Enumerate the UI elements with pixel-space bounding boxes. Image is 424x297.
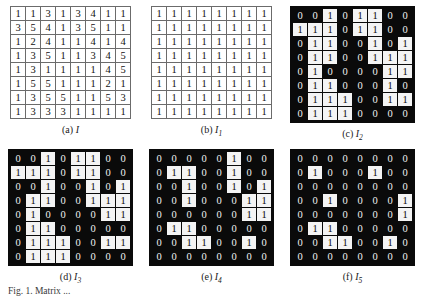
matrix-cell: 1 [197,236,212,250]
matrix-cell: 1 [152,35,167,49]
matrix-cell: 1 [257,77,272,91]
matrix-cell: 0 [197,194,212,208]
matrix-cell: 1 [257,21,272,35]
matrix-cell: 1 [167,49,182,63]
matrix-cell: 3 [71,21,86,35]
matrix-cell: 0 [167,180,182,194]
matrix-cell: 0 [323,166,338,180]
matrix-cell: 1 [398,208,414,222]
matrix-cell: 1 [368,8,383,23]
matrix-row: 35413511 [11,21,131,35]
matrix-cell: 1 [86,63,101,77]
panel-d-subscript: 3 [77,276,81,285]
matrix-cell: 3 [26,49,41,63]
matrix-cell: 1 [11,105,26,119]
matrix-cell: 0 [398,236,414,250]
matrix-cell: 0 [71,236,86,250]
matrix-cell: 1 [227,180,242,194]
matrix-cell: 1 [167,222,182,236]
matrix-cell: 1 [71,151,86,166]
matrix-cell: 0 [56,166,71,180]
matrix-cell: 1 [116,21,131,35]
matrix-cell: 5 [41,49,56,63]
matrix-cell: 0 [151,180,167,194]
matrix-cell: 0 [242,222,257,236]
matrix-cell: 1 [116,77,131,91]
matrix-cell: 1 [41,222,56,236]
matrix-cell: 0 [398,222,414,236]
matrix-cell: 1 [41,180,56,194]
figure-row-top: 1131341135413511124114141351134513111145… [0,6,424,142]
matrix-cell: 0 [151,151,167,166]
matrix-row: 01110011 [10,236,132,250]
matrix-cell: 1 [182,166,197,180]
matrix-cell: 1 [398,93,414,107]
matrix-cell: 0 [257,151,273,166]
matrix-cell: 0 [308,194,323,208]
matrix-cell: 0 [101,166,116,180]
matrix-row: 00000001 [292,208,414,222]
matrix-row: 00101100 [292,8,414,23]
matrix-cell: 0 [338,250,353,265]
matrix-cell: 1 [323,236,338,250]
matrix-row: 00000000 [292,180,414,194]
matrix-cell: 1 [323,23,338,37]
matrix-cell: 3 [86,49,101,63]
matrix-cell: 0 [101,151,116,166]
matrix-row: 13511345 [11,49,131,63]
matrix-cell: 0 [151,236,167,250]
matrix-cell: 1 [86,180,101,194]
matrix-row: 13331111 [11,105,131,119]
matrix-cell: 0 [101,222,116,236]
matrix-cell: 0 [116,151,132,166]
matrix-cell: 1 [41,194,56,208]
matrix-cell: 1 [308,79,323,93]
matrix-cell: 1 [167,7,182,21]
matrix-cell: 0 [308,180,323,194]
matrix-cell: 0 [353,166,368,180]
matrix-cell: 0 [353,194,368,208]
matrix-row: 00100011 [151,194,273,208]
matrix-cell: 1 [71,35,86,49]
matrix-cell: 0 [292,194,308,208]
matrix-cell: 0 [292,151,308,166]
matrix-cell: 0 [212,180,227,194]
matrix-cell: 1 [11,91,26,105]
matrix-cell: 0 [353,180,368,194]
matrix-cell: 1 [227,105,242,119]
matrix-cell: 0 [323,180,338,194]
matrix-row: 01000011 [10,208,132,222]
matrix-row: 11111111 [152,35,272,49]
matrix-cell: 1 [338,107,353,122]
panel-e-subscript: 4 [218,276,222,285]
matrix-cell: 1 [167,166,182,180]
matrix-cell: 1 [182,49,197,63]
matrix-cell: 1 [323,107,338,122]
panel-a-symbol: I [76,124,79,135]
matrix-cell: 1 [71,63,86,77]
matrix-cell: 0 [167,250,182,265]
matrix-a: 1131341135413511124114141351134513111145… [10,6,131,119]
matrix-cell: 0 [353,151,368,166]
matrix-cell: 0 [292,208,308,222]
matrix-cell: 0 [292,180,308,194]
matrix-cell: 0 [10,151,26,166]
matrix-cell: 0 [338,8,353,23]
matrix-row: 01100111 [10,194,132,208]
matrix-cell: 1 [182,105,197,119]
panel-f-subscript: 5 [359,276,363,285]
matrix-cell: 1 [292,23,308,37]
matrix-cell: 0 [197,222,212,236]
matrix-cell: 1 [182,180,197,194]
matrix-cell: 1 [197,7,212,21]
matrix-cell: 0 [212,151,227,166]
matrix-f-holder: 0000000001000100000000000010000100000001… [290,149,415,266]
matrix-cell: 1 [212,21,227,35]
matrix-cell: 1 [26,194,41,208]
matrix-cell: 0 [151,208,167,222]
matrix-row: 01100100 [151,166,273,180]
matrix-cell: 4 [41,35,56,49]
matrix-cell: 0 [101,180,116,194]
matrix-cell: 1 [242,63,257,77]
panel-e: 0000010001100100001001010010001100000011… [141,149,282,285]
